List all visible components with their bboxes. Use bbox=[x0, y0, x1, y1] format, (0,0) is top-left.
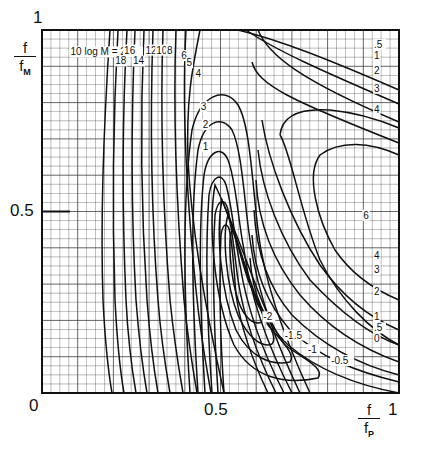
x-tick-1: 1 bbox=[388, 400, 397, 420]
contour-label: 1 bbox=[374, 50, 380, 61]
contour-label: -0.5 bbox=[331, 355, 349, 366]
y-tick-1: 1 bbox=[33, 8, 42, 28]
contour-label: 2 bbox=[374, 286, 380, 297]
x-tick-0.5: 0.5 bbox=[204, 400, 228, 420]
contour-label: 16 bbox=[124, 45, 136, 56]
contour-label: 6 bbox=[363, 210, 369, 221]
contour-6 bbox=[313, 144, 399, 300]
contour-label: 1 bbox=[203, 141, 209, 152]
contour-label: 4 bbox=[374, 250, 380, 261]
origin-tick: 0 bbox=[29, 396, 38, 416]
contour-label: 8 bbox=[167, 45, 173, 56]
contour-neg0.5 bbox=[212, 185, 319, 380]
x-label-bar bbox=[358, 418, 380, 419]
contour-label: -2 bbox=[263, 311, 272, 322]
contour-label: 2 bbox=[203, 119, 209, 130]
y-tick-0.5: 0.5 bbox=[10, 201, 34, 221]
contour-label: 3 bbox=[374, 264, 380, 275]
x-axis-label: f fP bbox=[358, 402, 380, 442]
contour-label: -1 bbox=[308, 344, 317, 355]
y-label-denominator: fM bbox=[14, 58, 36, 80]
contour-label: 3 bbox=[201, 101, 207, 112]
x-label-denominator: fP bbox=[358, 420, 380, 442]
y-axis-label: f fM bbox=[14, 40, 36, 80]
contour-label: 4 bbox=[374, 104, 380, 115]
x-label-numerator: f bbox=[358, 402, 380, 417]
contour-label: .5 bbox=[374, 322, 383, 333]
y-label-bar bbox=[14, 56, 36, 57]
contour-label: 14 bbox=[133, 55, 145, 66]
contour-label: 2 bbox=[374, 65, 380, 76]
contour-label: 5 bbox=[187, 57, 193, 68]
contour-label: 18 bbox=[115, 55, 127, 66]
contour-chart: 10 log M = 2018161412108654321.512346432… bbox=[0, 0, 422, 449]
y-label-numerator: f bbox=[14, 40, 36, 55]
contour-4-lower bbox=[262, 120, 399, 330]
contour-label: .5 bbox=[374, 39, 383, 50]
contour-label: -1.5 bbox=[285, 330, 303, 341]
contour-label: 0 bbox=[374, 333, 380, 344]
contour-label: 1 bbox=[374, 311, 380, 322]
contour-label: 4 bbox=[196, 68, 202, 79]
contour-label: 3 bbox=[374, 83, 380, 94]
